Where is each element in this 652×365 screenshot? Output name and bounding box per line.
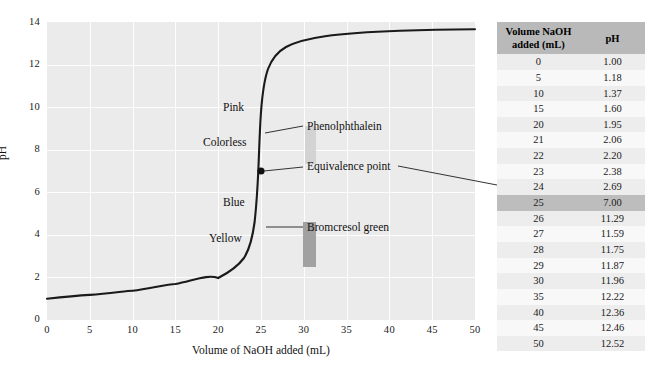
x-tick-label: 15 xyxy=(163,324,187,335)
label-phenolphthalein: Phenolphthalein xyxy=(307,120,382,132)
table-cell-volume: 26 xyxy=(497,211,580,227)
x-tick-label: 5 xyxy=(78,324,102,335)
table-cell-volume: 24 xyxy=(497,179,580,195)
x-tick-label: 35 xyxy=(335,324,359,335)
table-cell-ph: 2.38 xyxy=(580,164,645,180)
table-row: 2611.29 xyxy=(497,211,645,227)
table-row: 242.69 xyxy=(497,179,645,195)
x-axis-title: Volume of NaOH added (mL) xyxy=(47,344,475,356)
x-tick-label: 0 xyxy=(35,324,59,335)
table-cell-ph: 12.52 xyxy=(580,336,645,352)
table-row: 232.38 xyxy=(497,164,645,180)
y-tick-label: 10 xyxy=(18,101,40,112)
label-colorless: Colorless xyxy=(203,136,246,148)
table-cell-ph: 12.46 xyxy=(580,320,645,336)
gridline-horizontal xyxy=(47,235,475,236)
chart-plot-area xyxy=(47,22,475,320)
gridline-horizontal xyxy=(47,65,475,66)
table-cell-volume: 22 xyxy=(497,148,580,164)
gridline-vertical xyxy=(90,22,91,320)
titration-data-table: Volume NaOH added (mL) pH 01.0051.18101.… xyxy=(497,22,645,351)
x-tick-label: 20 xyxy=(206,324,230,335)
table-cell-ph: 11.59 xyxy=(580,226,645,242)
table-cell-volume: 20 xyxy=(497,117,580,133)
label-equivalence-point: Equivalence point xyxy=(307,160,390,172)
table-cell-ph: 1.95 xyxy=(580,117,645,133)
table-row: 151.60 xyxy=(497,101,645,117)
table-cell-ph: 11.29 xyxy=(580,211,645,227)
y-tick-label: 8 xyxy=(18,143,40,154)
gridline-vertical xyxy=(432,22,433,320)
table-cell-volume: 23 xyxy=(497,164,580,180)
y-tick-label: 12 xyxy=(18,58,40,69)
table-row: 3011.96 xyxy=(497,273,645,289)
table-body: 01.0051.18101.37151.60201.95212.06222.20… xyxy=(497,54,645,351)
table-cell-ph: 1.00 xyxy=(580,54,645,70)
table-row: 257.00 xyxy=(497,195,645,211)
table-cell-volume: 45 xyxy=(497,320,580,336)
table-row: 212.06 xyxy=(497,132,645,148)
y-tick-label: 14 xyxy=(18,16,40,27)
table-row: 2811.75 xyxy=(497,242,645,258)
y-tick-label: 4 xyxy=(18,228,40,239)
table-cell-ph: 11.96 xyxy=(580,273,645,289)
table-cell-volume: 10 xyxy=(497,86,580,102)
y-tick-label: 2 xyxy=(18,271,40,282)
table-header-volume-line2: added (mL) xyxy=(512,39,565,50)
table-cell-ph: 1.37 xyxy=(580,86,645,102)
table-cell-ph: 12.36 xyxy=(580,305,645,321)
table-cell-ph: 2.69 xyxy=(580,179,645,195)
table-cell-ph: 2.06 xyxy=(580,132,645,148)
table-row: 4512.46 xyxy=(497,320,645,336)
table-row: 4012.36 xyxy=(497,305,645,321)
table-cell-volume: 50 xyxy=(497,336,580,352)
gridline-vertical xyxy=(261,22,262,320)
table-cell-volume: 35 xyxy=(497,289,580,305)
gridline-vertical xyxy=(218,22,219,320)
x-tick-label: 45 xyxy=(420,324,444,335)
table-cell-volume: 25 xyxy=(497,195,580,211)
table-cell-ph: 1.18 xyxy=(580,70,645,86)
table-header-volume: Volume NaOH added (mL) xyxy=(497,22,580,54)
table-row: 2711.59 xyxy=(497,226,645,242)
y-tick-label: 6 xyxy=(18,186,40,197)
y-axis-title: pH xyxy=(0,146,8,160)
table-cell-volume: 29 xyxy=(497,258,580,274)
table-cell-volume: 21 xyxy=(497,132,580,148)
x-tick-label: 25 xyxy=(249,324,273,335)
gridline-horizontal xyxy=(47,150,475,151)
table-cell-ph: 1.60 xyxy=(580,101,645,117)
label-bromcresol-green: Bromcresol green xyxy=(307,221,389,233)
table-cell-ph: 11.87 xyxy=(580,258,645,274)
table-row: 51.18 xyxy=(497,70,645,86)
label-yellow: Yellow xyxy=(209,232,242,244)
table-row: 2911.87 xyxy=(497,258,645,274)
table-row: 101.37 xyxy=(497,86,645,102)
table-cell-volume: 0 xyxy=(497,54,580,70)
table-cell-volume: 5 xyxy=(497,70,580,86)
table-cell-volume: 30 xyxy=(497,273,580,289)
y-tick-label: 0 xyxy=(18,313,40,324)
gridline-horizontal xyxy=(47,107,475,108)
label-pink: Pink xyxy=(223,101,244,113)
table-row: 222.20 xyxy=(497,148,645,164)
x-tick-label: 10 xyxy=(121,324,145,335)
titration-figure: 14 12 10 8 6 4 2 0 pH 0 5 10 15 20 25 30… xyxy=(0,0,652,365)
table-cell-ph: 12.22 xyxy=(580,289,645,305)
gridline-vertical xyxy=(304,22,305,320)
gridline-vertical xyxy=(133,22,134,320)
table-cell-volume: 40 xyxy=(497,305,580,321)
table-row: 201.95 xyxy=(497,117,645,133)
table-row: 5012.52 xyxy=(497,336,645,352)
table-header-volume-line1: Volume NaOH xyxy=(506,26,572,37)
table-cell-ph: 11.75 xyxy=(580,242,645,258)
table-cell-volume: 28 xyxy=(497,242,580,258)
x-tick-label: 40 xyxy=(377,324,401,335)
table-header-ph: pH xyxy=(580,22,645,54)
table-cell-volume: 15 xyxy=(497,101,580,117)
table-row: 3512.22 xyxy=(497,289,645,305)
gridline-vertical xyxy=(175,22,176,320)
table-cell-volume: 27 xyxy=(497,226,580,242)
table-cell-ph: 7.00 xyxy=(580,195,645,211)
gridline-horizontal xyxy=(47,277,475,278)
